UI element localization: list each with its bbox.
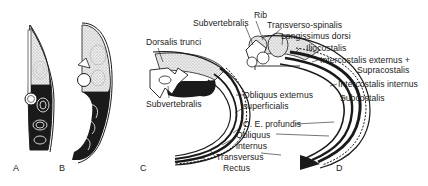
label-obliquus-externus-sup-2: superficialis: [243, 102, 289, 111]
label-transversus: Transversus: [216, 153, 264, 162]
panel-b-drawing: [72, 23, 112, 163]
label-dorsalis-trunci: Dorsalis trunci: [146, 38, 201, 47]
panel-label-d: D: [336, 164, 343, 173]
label-intercostalis-internus: Intercostalis internus: [338, 80, 418, 89]
label-obliquus-externus-sup-1: Obliquus externus: [243, 91, 313, 100]
label-longissimus-dorsi: Longissimus dorsi: [281, 32, 351, 41]
panel-label-c: C: [140, 164, 147, 173]
label-obliquus-internus-2: internus: [236, 142, 267, 151]
label-subcostalis: Subcostalis: [340, 94, 385, 103]
label-rectus: Rectus: [223, 164, 250, 173]
label-intercostalis-externus-1: Intercostalis externus +: [320, 56, 410, 65]
label-obliquus-internus-1: Obliquus: [236, 131, 270, 140]
panel-label-a: A: [13, 164, 19, 173]
label-oe-profundis: O. E. profundis: [243, 120, 301, 129]
label-rib: Rib: [254, 11, 267, 20]
label-transverso-spinalis: Transverso-spinalis: [267, 21, 342, 30]
panel-a-drawing: [25, 25, 54, 152]
label-iliocostalis: Iliocostalis: [306, 44, 346, 53]
label-subvertebralis-c: Subvertebralis: [146, 100, 202, 109]
panel-label-b: B: [59, 164, 65, 173]
label-subvertebralis-d: Subvertebralis: [193, 19, 249, 28]
label-intercostalis-externus-2: Supracostalis: [357, 66, 409, 75]
